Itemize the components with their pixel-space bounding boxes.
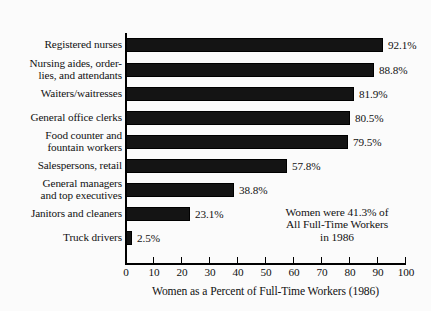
bar-value-label: 92.1% xyxy=(388,39,416,51)
bar-group: 88.8% xyxy=(125,63,407,77)
x-axis-tick xyxy=(349,257,350,264)
x-axis-tick-label: 0 xyxy=(123,266,129,278)
bar-group: 79.5% xyxy=(125,135,381,149)
bar-group: 81.9% xyxy=(125,87,387,101)
x-axis-tick-label: 60 xyxy=(289,266,300,278)
category-label: Truck drivers xyxy=(4,232,122,244)
category-label: Nursing aides, order- lies, and attendan… xyxy=(4,58,122,81)
bar-group: 80.5% xyxy=(125,111,383,125)
bar-row: Salespersons, retail 57.8% xyxy=(0,154,431,178)
bar-group: 57.8% xyxy=(125,159,320,173)
plot-area: Registered nurses 92.1% Nursing aides, o… xyxy=(0,0,431,311)
x-axis-tick-label: 20 xyxy=(177,266,188,278)
x-axis-tick xyxy=(125,257,126,264)
bar-row: General office clerks 80.5% xyxy=(0,106,431,130)
category-label: Food counter and fountain workers xyxy=(4,130,122,153)
bar-row: Waiters/waitresses 81.9% xyxy=(0,82,431,106)
x-axis-tick-label: 30 xyxy=(205,266,216,278)
category-label: Salespersons, retail xyxy=(4,160,122,172)
x-axis-tick-label: 80 xyxy=(345,266,356,278)
bar xyxy=(125,111,350,125)
bar-value-label: 80.5% xyxy=(355,112,383,124)
x-axis-tick xyxy=(377,257,378,264)
x-axis-tick-label: 90 xyxy=(373,266,384,278)
chart-annotation: Women were 41.3% of All Full-Time Worker… xyxy=(262,206,412,243)
x-axis-tick xyxy=(153,257,154,264)
x-axis-tick-label: 40 xyxy=(233,266,244,278)
bar-row: Nursing aides, order- lies, and attendan… xyxy=(0,58,431,82)
x-axis-title: Women as a Percent of Full-Time Workers … xyxy=(125,285,406,298)
x-axis-tick xyxy=(321,257,322,264)
bar xyxy=(125,63,374,77)
bar-group: 92.1% xyxy=(125,38,416,52)
x-axis-tick xyxy=(181,257,182,264)
category-label: Janitors and cleaners xyxy=(4,208,122,220)
bar-value-label: 57.8% xyxy=(292,160,320,172)
x-axis-tick-label: 50 xyxy=(261,266,272,278)
x-axis-tick xyxy=(237,257,238,264)
bar-value-label: 38.8% xyxy=(239,184,267,196)
x-axis-tick-label: 70 xyxy=(317,266,328,278)
bar xyxy=(125,135,348,149)
x-axis-tick xyxy=(265,257,266,264)
category-label: General office clerks xyxy=(4,112,122,124)
bar xyxy=(125,87,354,101)
bar-row: General managers and top executives 38.8… xyxy=(0,178,431,202)
x-axis-tick xyxy=(293,257,294,264)
bar xyxy=(125,159,287,173)
category-label: General managers and top executives xyxy=(4,178,122,201)
chart-container: Registered nurses 92.1% Nursing aides, o… xyxy=(0,0,431,311)
bar-value-label: 88.8% xyxy=(379,64,407,76)
bar-group: 23.1% xyxy=(125,207,223,221)
y-axis-spine xyxy=(125,33,127,264)
x-axis-tick xyxy=(405,257,406,264)
x-axis-tick-label: 10 xyxy=(149,266,160,278)
bar xyxy=(125,183,234,197)
x-axis-tick-label: 100 xyxy=(398,266,414,278)
bar-value-label: 79.5% xyxy=(353,136,381,148)
bar-row: Food counter and fountain workers 79.5% xyxy=(0,130,431,154)
bar-value-label: 23.1% xyxy=(195,208,223,220)
bar xyxy=(125,38,383,52)
category-label: Waiters/waitresses xyxy=(4,88,122,100)
bar-group: 2.5% xyxy=(125,231,160,245)
bar-value-label: 2.5% xyxy=(137,232,160,244)
bar xyxy=(125,207,190,221)
bar-row: Registered nurses 92.1% xyxy=(0,33,431,57)
bar-group: 38.8% xyxy=(125,183,267,197)
x-axis-tick xyxy=(209,257,210,264)
category-label: Registered nurses xyxy=(4,39,122,51)
bar-value-label: 81.9% xyxy=(359,88,387,100)
